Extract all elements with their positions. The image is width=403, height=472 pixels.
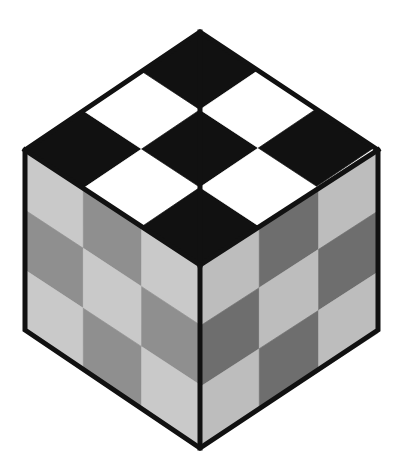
figure-stage: Isometric Checkerboard Cube A black-and-… [0,0,403,472]
isometric-cube-figure: Isometric Checkerboard Cube A black-and-… [0,0,403,472]
